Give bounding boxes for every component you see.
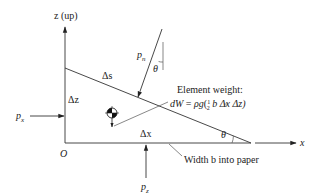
x-axis: x [255,137,305,148]
z-axis-label: z (up) [54,10,78,22]
weight-annotation: Element weight: dW = ρg(12 b Δx Δz) [170,84,246,111]
centroid-icon [105,106,119,118]
px-label: px [15,110,25,124]
width-leader-line [169,144,182,156]
pn-angle-label: θ [153,63,158,74]
pz-force: pz [140,145,149,194]
x-axis-label: x [299,137,305,148]
z-axis: z (up) [54,10,78,68]
weight-title: Element weight: [177,84,243,95]
angle-label: θ [221,129,226,140]
vertical-side-label: Δz [68,94,79,105]
pn-arrow [138,29,162,97]
width-note-label: Width b into paper [184,154,260,165]
px-force: px [15,110,64,124]
width-note: Width b into paper [169,144,260,165]
hypotenuse-label: Δs [102,70,112,81]
horizontal-side-label: Δx [140,128,151,139]
angle-arc [232,136,233,143]
fluid-wedge-diagram: z (up) Δs Δz Δx θ x O px pz pn θ [0,0,317,194]
origin-label: O [60,148,67,159]
weight-leader-line [114,102,168,126]
pn-label: pn [136,49,146,63]
pn-angle-arc [159,62,163,63]
pz-label: pz [140,181,149,194]
pn-force: pn θ [136,29,163,97]
weight-equation: dW = ρg(12 b Δx Δz) [170,98,246,111]
